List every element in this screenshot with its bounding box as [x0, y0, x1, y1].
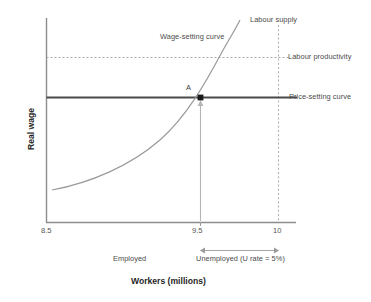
unemployed-bracket-left-arrow [200, 248, 205, 254]
annotation-wage-setting-curve: Wage-setting curve [160, 33, 224, 40]
unemployed-bracket-right-arrow [274, 248, 279, 254]
point-a-label: A [186, 83, 191, 92]
region-label-employed: Employed [113, 255, 146, 262]
wage-setting-curve [52, 20, 240, 190]
xtick-label-8-5: 8.5 [41, 227, 52, 235]
xtick-label-10: 10 [273, 227, 281, 235]
annotation-labour-productivity: Labour productivity [288, 53, 351, 60]
chart-canvas [0, 0, 371, 302]
point-a-marker [198, 95, 204, 101]
annotation-price-setting-curve: Price-setting curve [289, 93, 351, 100]
equilibrium-indicator-arrow [198, 100, 204, 106]
annotation-labour-supply: Labour supply [250, 16, 297, 23]
region-label-unemployed: Unemployed (U rate = 5%) [196, 255, 285, 262]
xtick-label-9-5: 9.5 [192, 227, 203, 235]
economics-chart: Wage-setting curve Labour supply Labour … [0, 0, 371, 302]
x-axis-title: Workers (millions) [131, 277, 206, 286]
y-axis-title: Real wage [27, 108, 36, 150]
